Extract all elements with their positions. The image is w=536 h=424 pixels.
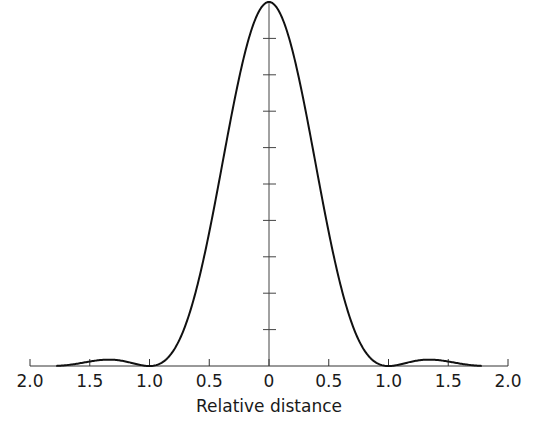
chart-svg: 2.01.51.00.500.51.01.52.0 Relative dista… [0, 0, 536, 424]
x-tick-labels: 2.01.51.00.500.51.01.52.0 [16, 371, 521, 391]
x-tick-label: 2.0 [16, 371, 43, 391]
x-tick-label: 0.5 [196, 371, 223, 391]
x-tick-label: 0 [264, 371, 275, 391]
x-axis-title: Relative distance [196, 396, 342, 416]
x-tick-label: 1.0 [136, 371, 163, 391]
y-axis [263, 2, 276, 366]
x-tick-label: 1.5 [76, 371, 103, 391]
x-tick-label: 2.0 [494, 371, 521, 391]
x-tick-label: 1.0 [375, 371, 402, 391]
x-tick-label: 0.5 [315, 371, 342, 391]
x-tick-label: 1.5 [435, 371, 462, 391]
